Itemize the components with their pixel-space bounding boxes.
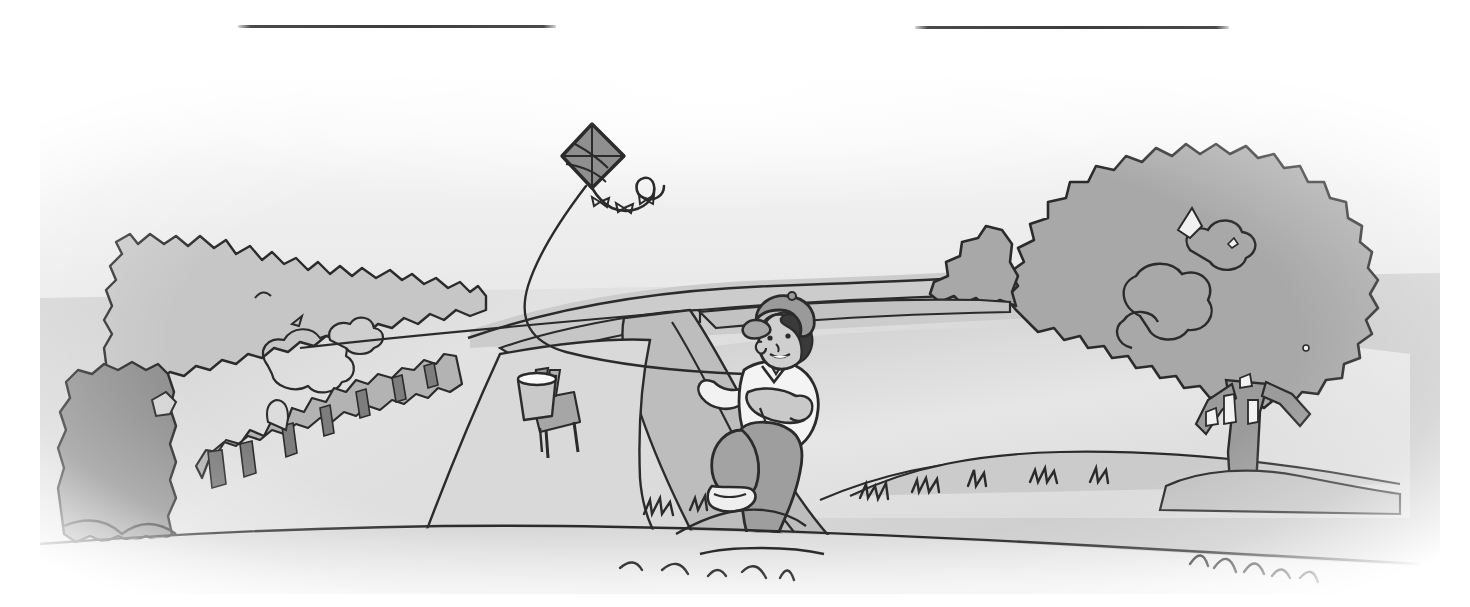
kite-illustration xyxy=(0,48,1470,607)
horizontal-rule-left xyxy=(238,25,556,28)
horizontal-rule-right xyxy=(915,26,1229,29)
bush-dark-left xyxy=(58,362,176,542)
page-root xyxy=(0,0,1470,607)
